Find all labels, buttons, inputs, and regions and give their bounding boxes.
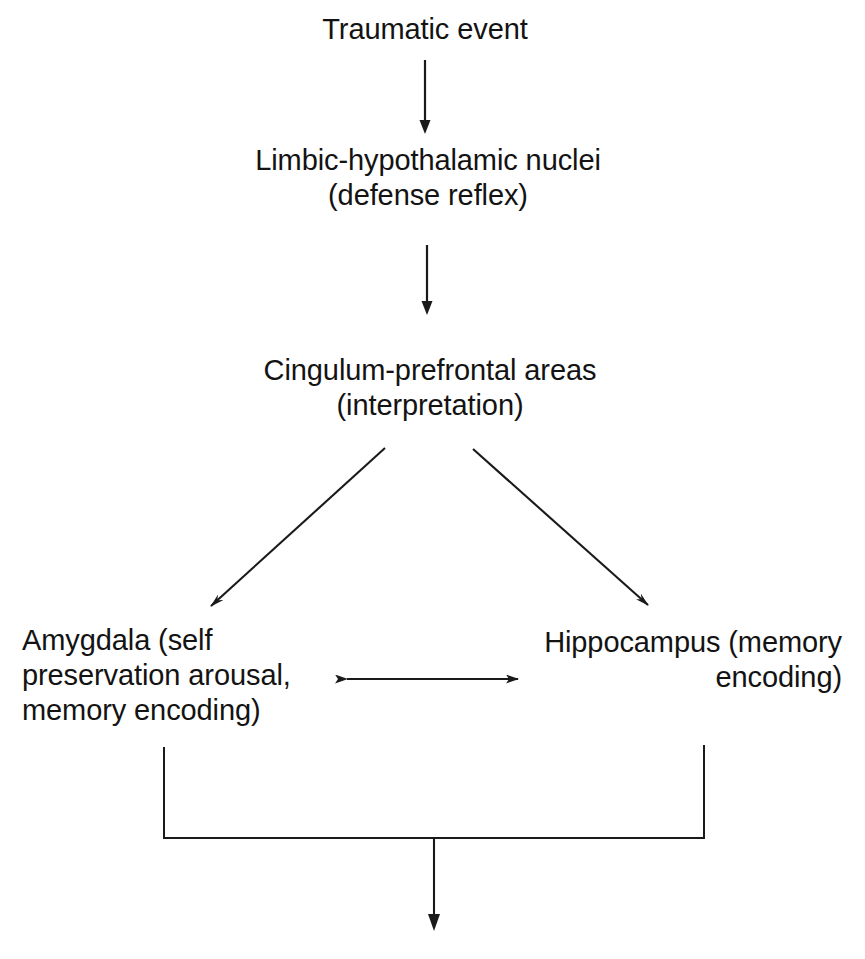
bracket-join-to-outcome xyxy=(164,745,704,931)
arrow-cingulum-to-hippocampus xyxy=(473,449,648,605)
node-hippocampus: Hippocampus (memory encoding) xyxy=(480,625,842,695)
node-traumatic-event: Traumatic event xyxy=(225,12,625,47)
node-amygdala: Amygdala (self preservation arousal, mem… xyxy=(22,623,322,728)
node-limbic-hypothalamic-nuclei: Limbic-hypothalamic nuclei (defense refl… xyxy=(228,143,628,213)
arrow-cingulum-to-amygdala xyxy=(211,448,385,606)
diagram-canvas: Traumatic event Limbic-hypothalamic nucl… xyxy=(0,0,865,959)
arrow-trauma-to-limbic xyxy=(420,60,431,134)
arrow-limbic-to-cingulum xyxy=(422,245,433,315)
node-cingulum-prefrontal-areas: Cingulum-prefrontal areas (interpretatio… xyxy=(230,353,630,423)
